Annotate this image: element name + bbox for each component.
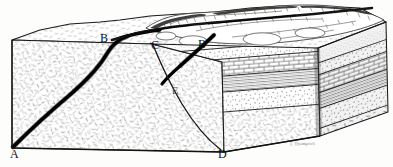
- label-A: A: [10, 148, 19, 160]
- footwall-front-face: [10, 38, 228, 156]
- artist-signature: J. Thompson: [290, 141, 315, 147]
- label-D: D: [218, 148, 227, 160]
- block-diagram-figure: A B C B E D J. Thompson: [0, 0, 393, 167]
- label-B-left: B: [100, 32, 109, 44]
- diagram-canvas: [0, 0, 393, 167]
- label-C: C: [151, 39, 160, 51]
- label-B-right: B: [198, 38, 207, 50]
- label-E: E: [172, 86, 179, 96]
